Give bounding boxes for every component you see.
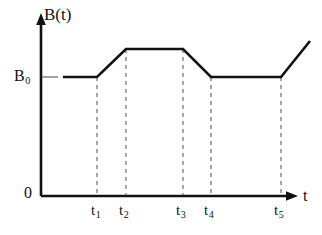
tick-label-t1: t1 xyxy=(91,203,101,220)
y-axis xyxy=(36,13,46,196)
y-axis-label: B(t) xyxy=(44,6,71,23)
x-axis-label: t xyxy=(303,188,307,204)
tick-label-t3: t3 xyxy=(176,203,186,220)
tick-label-t1-subscript: 1 xyxy=(95,209,101,220)
b0-label: B0 xyxy=(14,68,30,86)
tick-label-t5-subscript: 5 xyxy=(278,209,284,220)
origin-label: 0 xyxy=(24,185,32,201)
b0-label-subscript: 0 xyxy=(25,75,31,86)
plot-area xyxy=(0,0,322,235)
tick-label-t4-subscript: 4 xyxy=(208,209,214,220)
guide-lines xyxy=(97,49,281,195)
x-axis xyxy=(41,191,298,201)
figure-canvas: B(t) t B0 0 t1 t2 t3 t4 t5 xyxy=(0,0,322,235)
bt-curve xyxy=(63,41,310,77)
tick-label-t3-subscript: 3 xyxy=(180,209,186,220)
b0-label-text: B xyxy=(14,67,25,84)
tick-label-t2: t2 xyxy=(119,203,129,220)
tick-label-t4: t4 xyxy=(204,203,214,220)
tick-label-t5: t5 xyxy=(274,203,284,220)
tick-label-t2-subscript: 2 xyxy=(123,209,129,220)
